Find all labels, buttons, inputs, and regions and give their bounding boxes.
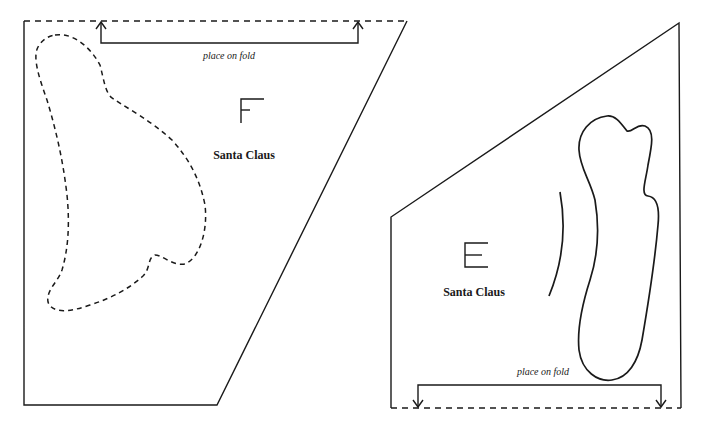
piece-f-cut-line	[24, 21, 407, 405]
piece-e-fold-bracket	[413, 385, 666, 407]
piece-e-letter-glyph	[465, 243, 488, 267]
piece-e-arc-line	[549, 192, 563, 296]
piece-f-placement-outline	[36, 35, 206, 311]
piece-f-title: Santa Claus	[213, 148, 275, 162]
piece-f-fold-bracket	[96, 22, 363, 43]
piece-e-fold-label: place on fold	[516, 366, 570, 377]
piece-e-placement-shape	[579, 116, 659, 380]
pattern-sheet: place on fold F Santa Claus place on fol…	[0, 0, 702, 430]
pattern-piece-f: place on fold F Santa Claus	[24, 21, 407, 405]
pattern-piece-e: place on fold E Santa Claus	[391, 23, 681, 408]
piece-e-cut-line	[391, 23, 681, 408]
piece-f-fold-label: place on fold	[202, 50, 256, 61]
piece-e-title: Santa Claus	[443, 285, 505, 299]
piece-f-letter-glyph	[241, 99, 264, 123]
